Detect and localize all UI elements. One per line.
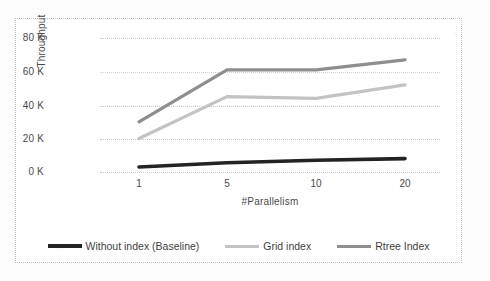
legend-swatch-grid-index <box>225 245 259 248</box>
y-tick-label-20k: 20 K <box>0 133 44 144</box>
legend-label-rtree-index: Rtree Index <box>375 240 429 252</box>
x-tick-label-1: 1 <box>119 178 159 189</box>
legend-item-grid-index[interactable]: Grid index <box>225 240 311 252</box>
legend-swatch-baseline <box>48 244 82 248</box>
y-tick-label-0k: 0 K <box>0 166 44 177</box>
legend-item-baseline[interactable]: Without index (Baseline) <box>48 240 200 252</box>
x-tick-label-10: 10 <box>296 178 336 189</box>
series-plot <box>100 38 440 172</box>
plot-area <box>100 38 440 172</box>
chart-figure: Throughput 80 K 60 K 40 K 20 K 0 K 1 5 1… <box>0 0 490 281</box>
y-tick-label-80k: 80 K <box>0 32 44 43</box>
legend-label-grid-index: Grid index <box>263 240 311 252</box>
legend-item-rtree-index[interactable]: Rtree Index <box>337 240 429 252</box>
legend-label-baseline: Without index (Baseline) <box>86 240 200 252</box>
x-axis-title: #Parallelism <box>100 196 440 207</box>
chart-legend: Without index (Baseline) Grid index Rtre… <box>20 236 457 256</box>
y-tick-label-40k: 40 K <box>0 100 44 111</box>
series-line-grid-index <box>139 85 405 139</box>
gridline-0k <box>100 172 440 173</box>
x-tick-label-5: 5 <box>207 178 247 189</box>
legend-swatch-rtree-index <box>337 245 371 248</box>
y-tick-label-60k: 60 K <box>0 66 44 77</box>
x-tick-label-20: 20 <box>385 178 425 189</box>
series-line-without-index-baseline <box>139 159 405 167</box>
